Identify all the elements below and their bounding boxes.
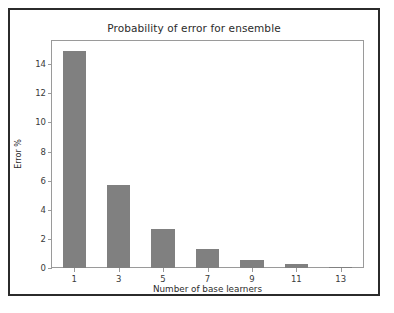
y-tick-mark: [48, 152, 52, 153]
figure-frame: Probability of error for ensemble 024681…: [8, 8, 380, 296]
x-tick-label: 5: [160, 274, 165, 284]
y-tick-mark: [48, 122, 52, 123]
bar-9: [240, 260, 263, 268]
x-tick-mark: [74, 268, 75, 272]
x-tick-label: 7: [205, 274, 210, 284]
y-tick-label: 8: [41, 147, 46, 157]
y-tick-label: 2: [41, 234, 46, 244]
y-tick-mark: [48, 210, 52, 211]
x-tick-mark: [119, 268, 120, 272]
bar-3: [107, 185, 130, 268]
x-tick-mark: [163, 268, 164, 272]
plot-area: 02468101214 135791113: [52, 41, 363, 268]
y-tick-label: 12: [35, 88, 46, 98]
y-tick-mark: [48, 239, 52, 240]
x-axis-label: Number of base learners: [51, 284, 364, 294]
x-tick-mark: [208, 268, 209, 272]
bar-1: [63, 51, 86, 268]
y-tick-mark: [48, 64, 52, 65]
x-tick-label: 3: [116, 274, 121, 284]
chart-title: Probability of error for ensemble: [10, 22, 378, 34]
y-tick-label: 6: [41, 176, 46, 186]
x-tick-label: 9: [249, 274, 254, 284]
y-tick-label: 10: [35, 117, 46, 127]
y-tick-mark: [48, 181, 52, 182]
x-tick-label: 1: [71, 274, 76, 284]
x-tick-mark: [341, 268, 342, 272]
bar-7: [196, 249, 219, 268]
x-tick-mark: [296, 268, 297, 272]
x-tick-mark: [252, 268, 253, 272]
bar-5: [151, 229, 174, 268]
y-tick-label: 14: [35, 59, 46, 69]
y-tick-label: 0: [41, 263, 46, 273]
y-tick-mark: [48, 93, 52, 94]
x-tick-label: 11: [291, 274, 302, 284]
y-tick-mark: [48, 268, 52, 269]
y-axis-label: Error %: [14, 139, 23, 169]
x-tick-label: 13: [335, 274, 346, 284]
y-tick-label: 4: [41, 205, 46, 215]
